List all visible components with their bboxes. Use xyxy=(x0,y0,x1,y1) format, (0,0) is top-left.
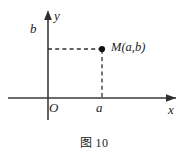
y-axis-label: y xyxy=(54,9,60,22)
y-tick-label-b: b xyxy=(30,22,37,35)
y-axis-arrow-icon xyxy=(44,10,52,20)
point-m-marker xyxy=(99,46,105,52)
x-axis-label: x xyxy=(168,103,174,116)
x-axis-arrow-icon xyxy=(166,94,176,102)
figure-caption: 图 10 xyxy=(0,133,188,151)
x-tick-label-a: a xyxy=(96,101,103,114)
point-m-label: M(a,b) xyxy=(111,41,145,54)
origin-label: O xyxy=(49,101,58,114)
coordinate-figure: y x b a O M(a,b) 图 10 xyxy=(0,0,188,158)
